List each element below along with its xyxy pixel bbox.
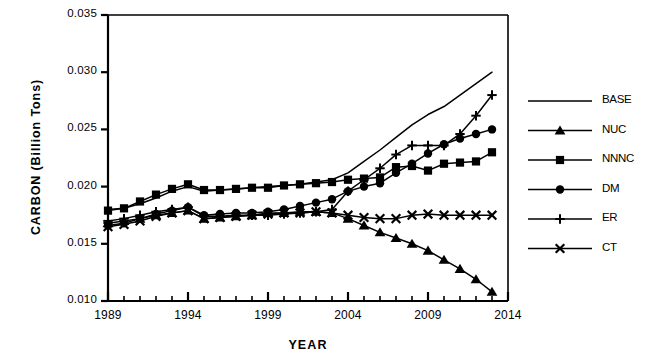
marker-square [344,176,352,184]
series-nuc [103,205,498,295]
legend-label-nnnc: NNNC [602,152,634,164]
marker-triangle [455,264,466,273]
y-tick-label: 0.025 [35,121,97,133]
legend-swatch-nuc [528,125,592,134]
legend-label-ct: CT [602,241,617,253]
marker-square [488,148,496,156]
marker-circle [312,198,320,206]
x-tick-label: 2014 [478,308,538,322]
marker-circle [556,185,564,193]
marker-square [472,157,480,165]
y-tick-label: 0.015 [35,236,97,248]
marker-triangle [439,255,450,264]
marker-triangle [471,274,482,283]
legend-swatch-er [528,214,592,223]
marker-square [556,156,564,164]
marker-square [120,204,128,212]
series-group [103,72,498,296]
marker-square [232,185,240,193]
marker-circle [376,179,384,187]
x-axis-title: YEAR [108,338,508,352]
marker-plus [423,141,432,150]
marker-square [184,180,192,188]
marker-triangle [375,227,386,236]
series-base [108,72,492,209]
legend-label-nuc: NUC [602,123,626,135]
x-tick-label: 1994 [158,308,218,322]
series-line [108,72,492,209]
marker-square [136,197,144,205]
y-tick-label: 0.010 [35,293,97,305]
marker-square [424,166,432,174]
marker-plus [555,214,564,223]
legend-label-dm: DM [602,182,619,194]
marker-circle [488,125,496,133]
marker-triangle [423,246,434,255]
y-tick-label: 0.030 [35,64,97,76]
x-tick-label: 2009 [398,308,458,322]
x-tick-label: 1999 [238,308,298,322]
x-tick-label: 2004 [318,308,378,322]
marker-square [264,184,272,192]
marker-square [248,184,256,192]
marker-circle [472,130,480,138]
marker-square [328,178,336,186]
legend-label-er: ER [602,211,617,223]
legend-swatch-dm [528,185,592,193]
legend-swatch-nnnc [528,156,592,164]
marker-circle [392,169,400,177]
series-line [108,211,492,292]
marker-square [104,207,112,215]
marker-square [168,185,176,193]
y-tick-label: 0.035 [35,7,97,19]
y-tick-label: 0.020 [35,179,97,191]
marker-square [152,191,160,199]
x-tick-label: 1989 [78,308,138,322]
marker-square [200,186,208,194]
legend-label-base: BASE [602,93,631,105]
marker-square [440,160,448,168]
marker-circle [424,149,432,157]
marker-circle [328,195,336,203]
marker-plus [407,141,416,150]
carbon-emissions-line-chart: CARBON (Billion Tons) YEAR 0.0100.0150.0… [0,0,647,364]
marker-square [312,179,320,187]
marker-square [280,181,288,189]
legend-swatch-ct [528,244,592,253]
marker-square [456,158,464,166]
marker-circle [408,159,416,167]
marker-square [216,186,224,194]
legend-graphics [528,101,592,253]
marker-square [296,180,304,188]
